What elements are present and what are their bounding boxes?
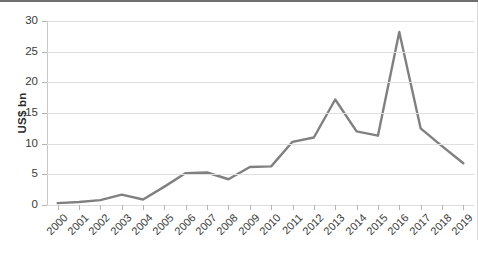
x-tick-mark-2011 [293,205,294,210]
y-tick-label-30: 30 [25,15,38,27]
x-tick-mark-2006 [186,205,187,210]
x-tick-mark-2013 [335,205,336,210]
x-tick-mark-2014 [357,205,358,210]
series-line-US$ bn [58,32,464,203]
x-tick-label-2000: 2000 [44,212,69,237]
x-tick-mark-2003 [122,205,123,210]
x-tick-mark-2016 [399,205,400,210]
gridline-y-0 [47,205,474,206]
y-tick-label-5: 5 [32,169,38,181]
gridline-y-15 [47,113,474,114]
x-tick-label-2011: 2011 [280,212,305,237]
x-tick-label-2006: 2006 [172,212,197,237]
x-tick-mark-2005 [164,205,165,210]
x-tick-label-2009: 2009 [236,212,261,237]
x-tick-label-2019: 2019 [450,212,475,237]
chart-container: US$ bn 051015202530 20002001200220032004… [0,0,478,254]
x-tick-mark-2001 [79,205,80,210]
x-tick-mark-2004 [143,205,144,210]
x-tick-mark-2007 [207,205,208,210]
x-tick-mark-2018 [442,205,443,210]
figure-top-border [0,0,478,2]
x-tick-label-2004: 2004 [130,212,155,237]
x-tick-label-2005: 2005 [151,212,176,237]
x-tick-label-2008: 2008 [215,212,240,237]
y-tick-mark-10 [42,144,47,145]
gridline-y-10 [47,144,474,145]
x-tick-label-2002: 2002 [87,212,112,237]
x-tick-label-2015: 2015 [365,212,390,237]
x-tick-label-2016: 2016 [386,212,411,237]
x-tick-mark-2000 [58,205,59,210]
x-tick-mark-2017 [421,205,422,210]
gridline-y-30 [47,21,474,22]
y-tick-mark-20 [42,82,47,83]
x-tick-mark-2019 [463,205,464,210]
y-tick-label-25: 25 [25,46,38,58]
x-tick-label-2012: 2012 [301,212,326,237]
y-tick-mark-30 [42,21,47,22]
plot-area: 051015202530 [47,21,474,205]
x-tick-label-2013: 2013 [322,212,347,237]
x-tick-label-2014: 2014 [343,212,368,237]
gridline-y-25 [47,52,474,53]
x-tick-mark-2009 [250,205,251,210]
x-tick-mark-2002 [100,205,101,210]
x-tick-mark-2015 [378,205,379,210]
x-tick-mark-2012 [314,205,315,210]
x-tick-label-2001: 2001 [66,212,91,237]
y-tick-label-10: 10 [25,138,38,150]
y-axis-title-container: US$ bn [0,21,18,205]
y-tick-mark-15 [42,113,47,114]
gridline-y-5 [47,174,474,175]
x-tick-mark-2010 [271,205,272,210]
x-tick-label-2003: 2003 [108,212,133,237]
x-tick-label-2010: 2010 [258,212,283,237]
y-tick-mark-0 [42,205,47,206]
gridline-y-20 [47,82,474,83]
y-tick-label-15: 15 [25,107,38,119]
y-tick-mark-25 [42,52,47,53]
x-tick-label-2018: 2018 [429,212,454,237]
y-tick-label-0: 0 [32,199,38,211]
y-tick-label-20: 20 [25,77,38,89]
x-tick-mark-2008 [228,205,229,210]
x-tick-label-2017: 2017 [407,212,432,237]
y-tick-mark-5 [42,174,47,175]
x-tick-label-2007: 2007 [194,212,219,237]
